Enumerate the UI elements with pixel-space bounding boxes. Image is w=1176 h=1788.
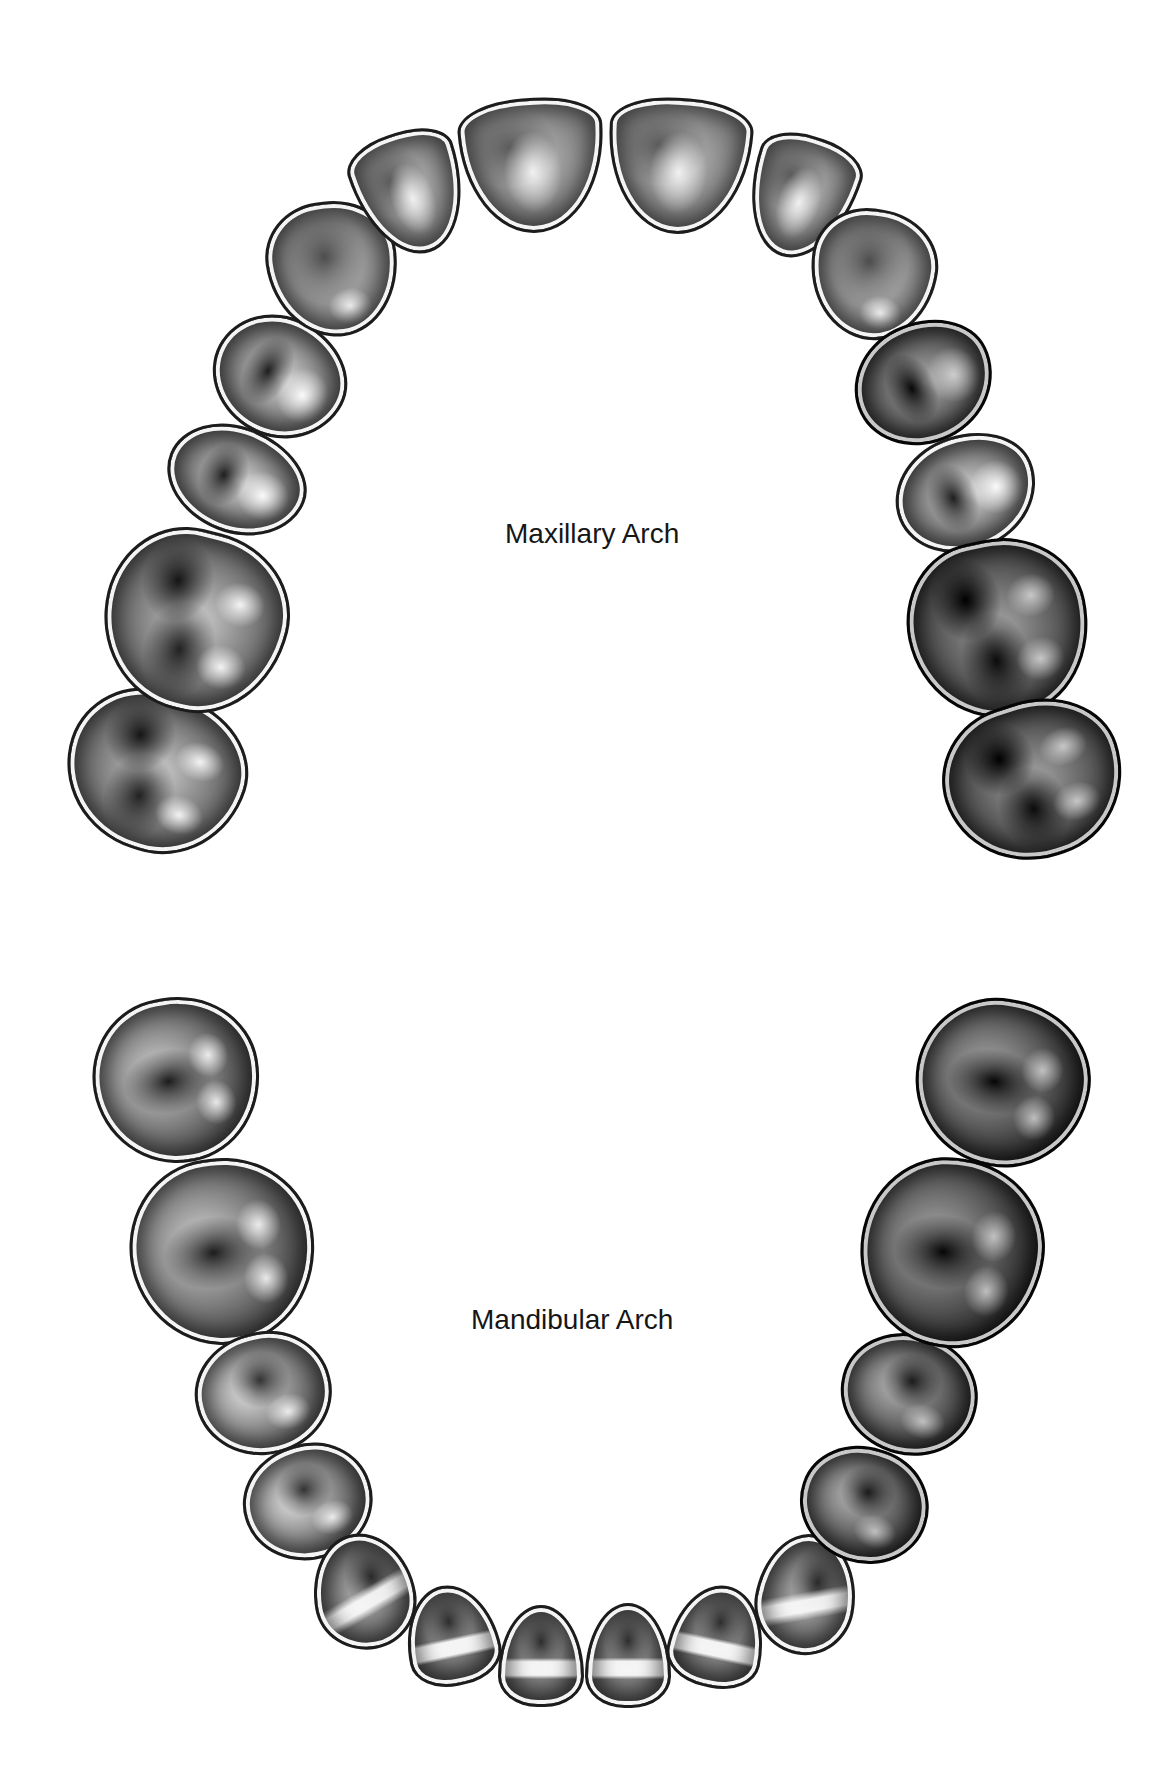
mandibular-arch-label: Mandibular Arch <box>471 1306 673 1334</box>
mandibular-right-second-molar <box>80 984 273 1176</box>
maxillary-right-central-incisor <box>455 93 609 238</box>
mandibular-left-second-molar <box>902 985 1104 1181</box>
maxillary-arch-label: Maxillary Arch <box>505 520 679 548</box>
mandibular-left-first-molar <box>848 1146 1057 1360</box>
maxillary-left-second-molar <box>923 677 1144 883</box>
mandibular-right-first-molar <box>118 1146 327 1357</box>
maxillary-left-central-incisor <box>602 93 755 239</box>
dental-arches-diagram: Maxillary Arch Mandibular Arch <box>0 0 1176 1788</box>
mandibular-right-central-incisor <box>498 1605 584 1707</box>
mandibular-left-central-incisor <box>585 1603 671 1708</box>
